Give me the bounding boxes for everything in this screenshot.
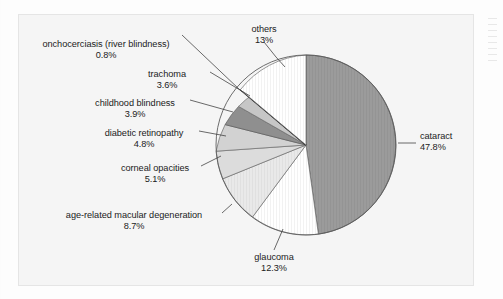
slice-label-corneal-opacities: corneal opacities 5.1% [111,163,199,186]
slice-label-age-related-macular-degeneration: age-related macular degeneration 8.7% [48,210,220,233]
slice-label-diabetic-retinopathy-name: diabetic retinopathy [92,128,196,139]
slice-label-childhood-blindness: childhood blindness 3.9% [83,98,187,121]
leader-line-amd [222,204,232,213]
slice-label-amd-pct: 8.7% [48,221,220,232]
pie-chart-figure: others 13% onchocerciasis (river blindne… [0,0,503,299]
slice-label-childhood-blindness-name: childhood blindness [83,98,187,109]
slice-label-trachoma-name: trachoma [128,69,206,80]
slice-label-trachoma: trachoma 3.6% [128,69,206,92]
slice-label-cataract: cataract 47.8% [420,131,496,154]
slice-label-onchocerciasis-pct: 0.8% [28,50,184,61]
slice-label-onchocerciasis: onchocerciasis (river blindness) 0.8% [28,39,184,62]
slice-label-glaucoma-name: glaucoma [229,252,319,263]
leader-line-trachoma [210,72,250,96]
slice-label-others-name: others [224,24,304,35]
slice-label-others: others 13% [224,24,304,47]
slice-label-diabetic-retinopathy-pct: 4.8% [92,139,196,150]
slice-label-corneal-opacities-name: corneal opacities [111,163,199,174]
slice-label-cataract-pct: 47.8% [420,142,496,153]
slice-label-corneal-opacities-pct: 5.1% [111,174,199,185]
slice-label-amd-name: age-related macular degeneration [48,210,220,221]
pie-slice-cataract [306,55,396,234]
slice-label-glaucoma-pct: 12.3% [229,263,319,274]
slice-label-cataract-name: cataract [420,131,496,142]
slice-label-others-pct: 13% [224,35,304,46]
slice-label-glaucoma: glaucoma 12.3% [229,252,319,275]
slice-label-diabetic-retinopathy: diabetic retinopathy 4.8% [92,128,196,151]
slice-label-onchocerciasis-name: onchocerciasis (river blindness) [28,39,184,50]
slice-label-childhood-blindness-pct: 3.9% [83,109,187,120]
leader-line-glaucoma [274,229,283,250]
slice-label-trachoma-pct: 3.6% [128,80,206,91]
